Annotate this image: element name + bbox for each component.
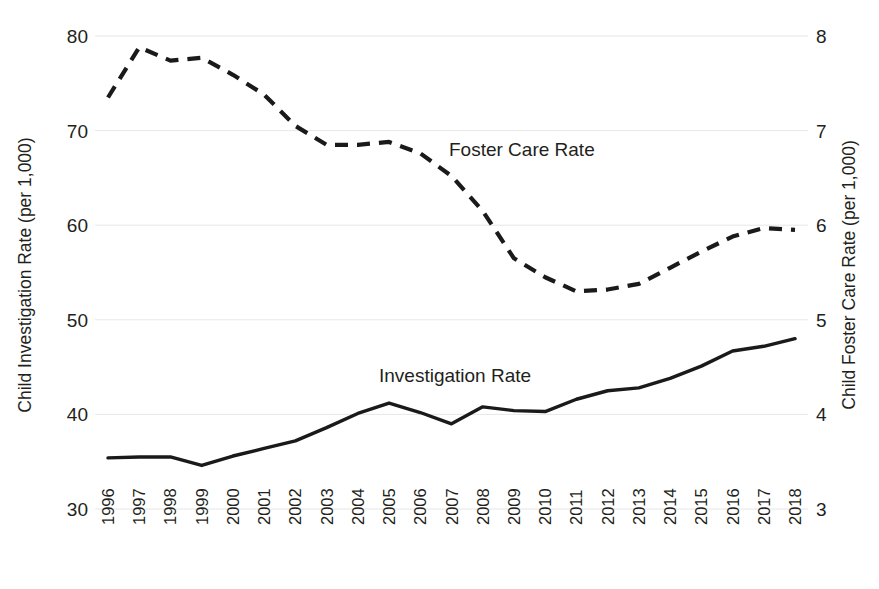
x-axis-tick-label: 2012 <box>599 488 617 525</box>
x-axis-tick-label: 2009 <box>505 488 523 525</box>
x-axis-tick-label: 1996 <box>99 488 117 525</box>
x-axis-tick-labels: 1996199719981999200020012002200320042005… <box>99 488 804 525</box>
y-axis-right-tick-label: 3 <box>816 499 827 520</box>
x-axis-tick-label: 1999 <box>193 488 211 525</box>
x-axis-tick-label: 2014 <box>661 488 679 525</box>
y-axis-left-title: Child Investigation Rate (per 1,000) <box>15 137 35 412</box>
x-axis-tick-label: 2013 <box>630 488 648 525</box>
x-axis-tick-label: 1997 <box>130 488 148 525</box>
y-axis-left-tick-label: 30 <box>67 499 88 520</box>
y-axis-left-tick-label: 80 <box>67 26 88 47</box>
annotation-foster-care-rate: Foster Care Rate <box>449 139 595 160</box>
y-axis-right-tick-label: 6 <box>816 215 827 236</box>
x-axis-tick-label: 2002 <box>286 488 304 525</box>
x-axis-tick-label: 2000 <box>224 488 242 525</box>
x-axis-tick-label: 1998 <box>161 488 179 525</box>
annotation-investigation-rate: Investigation Rate <box>379 365 531 386</box>
x-axis-tick-label: 2017 <box>755 488 773 525</box>
y-axis-right-tick-label: 5 <box>816 310 827 331</box>
y-axis-right-tick-label: 4 <box>816 404 827 425</box>
x-axis-tick-label: 2005 <box>380 488 398 525</box>
x-axis-tick-label: 2015 <box>692 488 710 525</box>
x-axis-tick-label: 2006 <box>411 488 429 525</box>
x-axis-tick-label: 2001 <box>255 488 273 525</box>
x-axis-tick-label: 2004 <box>349 488 367 525</box>
y-axis-left-tick-label: 40 <box>67 404 88 425</box>
x-axis-tick-label: 2016 <box>724 488 742 525</box>
y-axis-right-tick-label: 7 <box>816 121 827 142</box>
y-axis-right-tick-label: 8 <box>816 26 827 47</box>
x-axis-tick-label: 2011 <box>567 490 585 525</box>
x-axis-tick-label: 2010 <box>536 488 554 525</box>
y-axis-left-tick-label: 70 <box>67 121 88 142</box>
y-axis-left-tick-label: 50 <box>67 310 88 331</box>
dual-axis-line-chart: 304050607080 345678 19961997199819992000… <box>0 0 879 589</box>
y-axis-left-tick-label: 60 <box>67 215 88 236</box>
x-axis-tick-label: 2007 <box>443 488 461 525</box>
chart-container: 304050607080 345678 19961997199819992000… <box>0 0 879 589</box>
x-axis-tick-label: 2018 <box>786 488 804 525</box>
x-axis-tick-label: 2008 <box>474 488 492 525</box>
x-axis-tick-label: 2003 <box>318 488 336 525</box>
y-axis-right-title: Child Foster Care Rate (per 1,000) <box>839 140 859 409</box>
